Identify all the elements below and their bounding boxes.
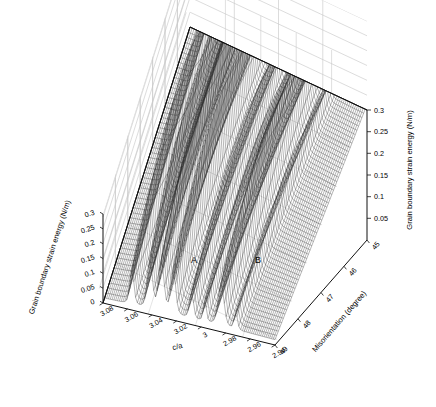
y-axis-ticks (275, 240, 369, 348)
z-right-tick-1: 0.1 (374, 192, 384, 201)
plot-canvas: 0 0.05 0.1 0.15 0.2 0.25 0.3 Grain bound… (0, 0, 436, 407)
annotation-label-a: A (191, 255, 197, 265)
z-right-tick-5: 0.3 (374, 106, 384, 115)
y-tick-1: 48 (301, 318, 313, 330)
z-axis-right-ticks (367, 110, 371, 218)
z-left-tick-4: 0.2 (83, 238, 95, 250)
annotation-label-b: B (255, 255, 261, 265)
z-left-tick-1: 0.05 (80, 282, 96, 295)
z-left-tick-6: 0.3 (83, 208, 95, 220)
z-axis-left-title: Grain boundary strain energy (N/m) (27, 199, 73, 316)
right-wall-panel (190, 0, 367, 110)
z-axis-right-tick-labels: 0.05 0.1 0.15 0.2 0.25 0.3 (374, 106, 388, 223)
z-right-tick-0: 0.05 (374, 214, 388, 223)
x-axis-tick-labels: 3.08 3.06 3.04 3.02 3 2.98 2.96 2.94 (98, 303, 287, 360)
z-axis-right-title: Grain boundary strain energy (N/m) (405, 110, 414, 230)
x-axis-title: c/a (171, 341, 184, 352)
y-tick-3: 46 (347, 266, 359, 278)
y-tick-4: 45 (370, 240, 382, 252)
z-right-tick-2: 0.15 (374, 171, 388, 180)
x-tick-4: 3 (201, 330, 209, 340)
z-left-tick-0: 0 (89, 297, 96, 307)
y-axis-title: Misorientation (degree) (310, 289, 368, 354)
z-left-tick-2: 0.1 (83, 267, 95, 279)
z-right-tick-3: 0.2 (374, 149, 384, 158)
y-tick-2: 47 (324, 292, 336, 304)
figure-3d-surface-plot: 0 0.05 0.1 0.15 0.2 0.25 0.3 Grain bound… (0, 0, 436, 407)
z-left-tick-5: 0.25 (80, 223, 96, 236)
z-left-tick-3: 0.15 (80, 252, 96, 265)
z-right-tick-4: 0.25 (374, 127, 388, 136)
z-axis-left-tick-labels: 0 0.05 0.1 0.15 0.2 0.25 0.3 (80, 208, 96, 307)
